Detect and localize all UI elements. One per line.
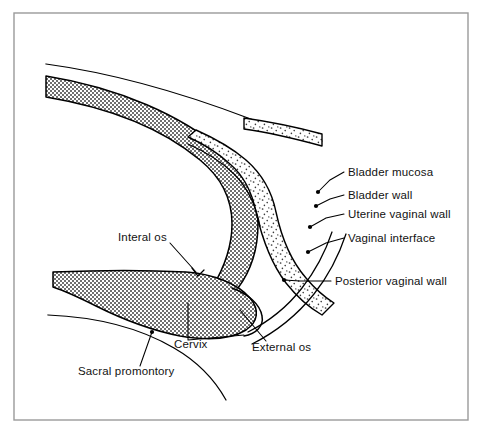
leader-vaginal-interface — [308, 238, 344, 252]
label-vaginal-interface: Vaginal interface — [348, 232, 435, 244]
label-sacral-promontory: Sacral promontory — [78, 365, 175, 377]
leader-bladder-mucosa — [318, 172, 344, 192]
label-uterine-vaginal-wall: Uterine vaginal wall — [348, 208, 451, 220]
uterine-wall-band — [46, 76, 258, 288]
leader-uterine-vaginal-wall — [310, 214, 344, 227]
label-bladder-wall: Bladder wall — [348, 189, 412, 201]
leader-bladder-wall — [316, 195, 344, 206]
leader-dot-sacral-promontory — [150, 330, 154, 334]
figure-page: Bladder mucosa Bladder wall Uterine vagi… — [0, 0, 486, 435]
leader-interal-os — [170, 243, 196, 272]
label-bladder-mucosa: Bladder mucosa — [348, 166, 434, 178]
label-interal-os: Interal os — [118, 231, 167, 243]
label-posterior-vaginal-wall: Posterior vaginal wall — [335, 275, 447, 287]
leader-sacral-promontory — [140, 332, 152, 366]
label-cervix: Cervix — [174, 338, 208, 350]
leader-dot-uterine-vaginal-wall — [308, 225, 312, 229]
anatomical-diagram: Bladder mucosa Bladder wall Uterine vagi… — [0, 0, 486, 435]
leader-dot-bladder-mucosa — [316, 190, 320, 194]
label-external-os: External os — [252, 341, 311, 353]
cervix-lower-uterine-mass — [53, 271, 256, 339]
leader-dot-bladder-wall — [314, 204, 318, 208]
leader-dot-posterior-vaginal-wall — [282, 278, 286, 282]
leader-dot-vaginal-interface — [306, 250, 310, 254]
bladder-dome-band — [244, 118, 322, 146]
